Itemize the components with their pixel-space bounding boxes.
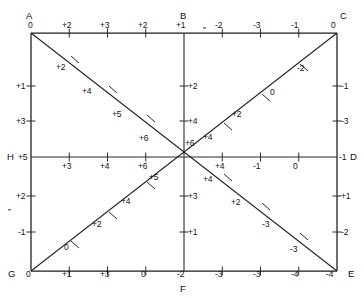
bottom-edge-value-0: 0 [26, 269, 31, 279]
top-edge-value-4: +1 [176, 20, 186, 30]
diagonal-ae-value-0: +2 [56, 62, 66, 72]
tick-diag-gc-3 [147, 182, 155, 189]
top-edge-value-5: -2 [215, 20, 223, 30]
node-label-F: F [180, 283, 186, 294]
diagonal-gc-value-0: 0 [64, 242, 69, 252]
diagonal-ae-value-4: +4 [203, 174, 213, 184]
grid-diagram-svg: A B C D E F G H 0 +2 +3 +2 +1 -2 -3 -1 0… [0, 0, 364, 298]
middle-row-left-value-1: +4 [100, 161, 110, 171]
middle-row-right-value-2: 0 [293, 161, 298, 171]
right-edge-value-3: -1 [339, 152, 347, 162]
diagram-canvas: A B C D E F G H 0 +2 +3 +2 +1 -2 -3 -1 0… [0, 0, 364, 298]
diagonal-ae-value-1: +4 [82, 86, 92, 96]
node-label-G: G [8, 268, 15, 279]
bottom-edge-value-6: -3 [253, 269, 261, 279]
middle-row-right-value-1: -1 [253, 161, 261, 171]
top-edge-value-7: -1 [291, 20, 299, 30]
diagonal-gc-value-5: +2 [232, 109, 242, 119]
top-edge-value-0: 0 [28, 20, 33, 30]
scan-speck-left [8, 209, 11, 211]
tick-diag-ae-3 [147, 115, 155, 122]
bottom-edge-value-1: +1 [62, 269, 72, 279]
diagonal-gc-value-2: +4 [121, 196, 131, 206]
top-edge-value-8: 0 [331, 20, 336, 30]
diagonal-ae-value-3: +6 [139, 133, 149, 143]
right-edge-value-5: -2 [341, 227, 349, 237]
middle-col-upper-value-0: +2 [188, 81, 198, 91]
tick-diag-ae-7 [300, 233, 308, 240]
node-label-E: E [348, 268, 354, 279]
middle-row-right-value-0: +4 [215, 161, 225, 171]
top-edge-value-2: +3 [100, 20, 110, 30]
right-edge-value-2: -3 [341, 116, 349, 126]
top-edge-value-3: +2 [138, 20, 148, 30]
middle-col-upper-value-2: +6 [185, 138, 195, 148]
tick-diag-gc-2 [109, 212, 117, 219]
bottom-edge-value-3: 0 [141, 269, 146, 279]
tick-diag-ae-6 [262, 203, 270, 210]
diagonal-gc-value-7: -2 [297, 63, 305, 73]
diagonal-gc-value-4: +4 [203, 132, 213, 142]
node-label-H: H [7, 151, 14, 162]
left-edge-value-5: -1 [18, 227, 26, 237]
bottom-edge-value-8: -4 [326, 269, 334, 279]
node-label-D: D [350, 151, 357, 162]
bottom-edge-value-7: -4 [291, 269, 299, 279]
tick-diag-ae-2 [109, 86, 117, 93]
diagonal-gc-value-3: +5 [149, 172, 159, 182]
right-edge-value-4: +1 [341, 191, 351, 201]
middle-col-lower-value-0: +3 [188, 191, 198, 201]
top-edge-value-6: -3 [253, 20, 261, 30]
diagonal-ae-value-2: +5 [112, 109, 122, 119]
bottom-edge-value-5: -3 [215, 269, 223, 279]
left-edge-value-3: +5 [18, 152, 28, 162]
tick-diag-gc-6 [262, 94, 270, 101]
diagonal-ae-value-7: -3 [290, 244, 298, 254]
tick-diag-ae-5 [224, 174, 232, 181]
right-edge-value-1: -1 [341, 81, 349, 91]
left-edge-value-1: +1 [16, 81, 26, 91]
middle-row-left-value-0: +3 [62, 161, 72, 171]
bottom-edge-value-4: -2 [177, 269, 185, 279]
diagonal-ae-value-5: +2 [231, 197, 241, 207]
node-label-C: C [340, 10, 347, 21]
diagonal-gc-value-6: 0 [270, 87, 275, 97]
middle-col-lower-value-1: +1 [188, 227, 198, 237]
diagonal-gc-value-1: +2 [92, 219, 102, 229]
bottom-edge-value-2: +3 [100, 269, 110, 279]
left-edge-value-2: +3 [16, 116, 26, 126]
tick-diag-gc-1 [71, 241, 79, 248]
middle-col-upper-value-1: +4 [188, 116, 198, 126]
tick-diag-ae-1 [71, 56, 79, 63]
top-edge-value-1: +2 [62, 20, 72, 30]
middle-row-left-value-2: +6 [138, 161, 148, 171]
diagonal-ae-value-6: -3 [262, 219, 270, 229]
scan-speck-top [203, 27, 206, 29]
left-edge-value-4: +2 [16, 191, 26, 201]
tick-diag-gc-5 [224, 123, 232, 130]
